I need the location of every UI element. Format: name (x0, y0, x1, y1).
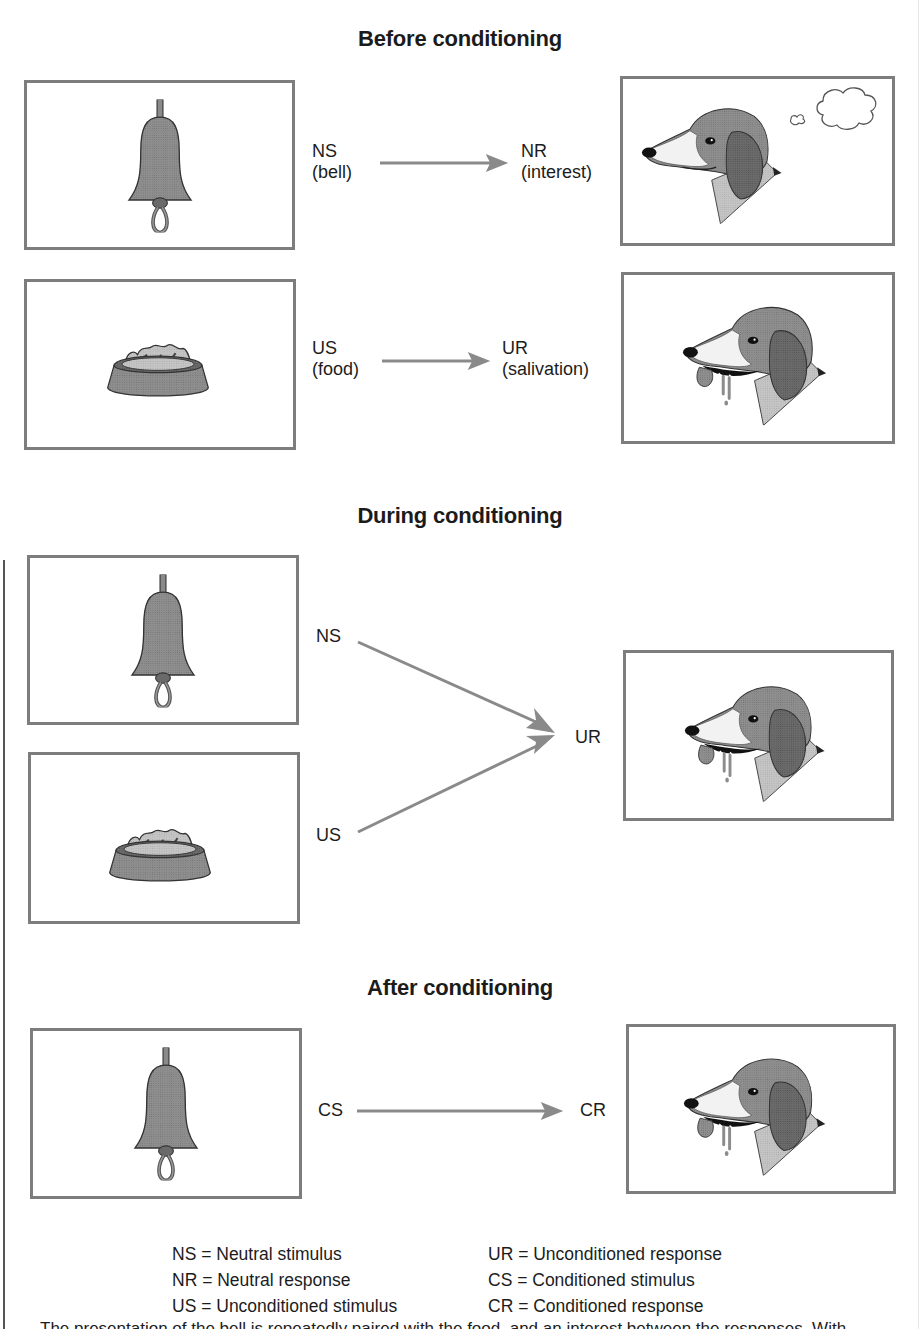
label-cs: CS (318, 1100, 343, 1121)
dog-interest-panel (620, 76, 895, 246)
label-ur: UR (502, 338, 528, 359)
page-edge-line (918, 0, 919, 1329)
label-us: US (316, 825, 341, 846)
legend-item: CR = Conditioned response (488, 1296, 703, 1317)
section-title-during: During conditioning (0, 503, 920, 529)
label-ur: UR (575, 727, 601, 748)
page-edge-line-left (3, 560, 5, 1329)
legend-item: US = Unconditioned stimulus (172, 1296, 397, 1317)
legend-item: NR = Neutral response (172, 1270, 351, 1291)
food-bowl-icon (105, 817, 215, 889)
label-nr-desc: (interest) (521, 162, 592, 183)
label-us-desc: (food) (312, 359, 359, 380)
dog-head-icon (681, 1047, 843, 1179)
dog-salivation-panel (623, 650, 894, 821)
legend-item: CS = Conditioned stimulus (488, 1270, 695, 1291)
bell-icon (126, 565, 200, 717)
dog-salivation-panel (621, 272, 895, 444)
label-ns: NS (316, 626, 341, 647)
dog-salivation-panel (626, 1024, 896, 1194)
dog-head-icon (680, 295, 844, 429)
arrow-right-icon (382, 352, 494, 370)
label-ns-desc: (bell) (312, 162, 352, 183)
arrow-right-icon (380, 154, 512, 172)
label-ur-desc: (salivation) (502, 359, 589, 380)
legend-item: NS = Neutral stimulus (172, 1244, 342, 1265)
bell-panel (30, 1028, 302, 1199)
converging-arrows-icon (350, 630, 570, 840)
food-bowl-icon (103, 332, 213, 404)
food-panel (28, 752, 300, 924)
bell-icon (123, 90, 197, 242)
label-cr: CR (580, 1100, 606, 1121)
thought-bubble-icon (783, 83, 883, 143)
bell-icon (129, 1038, 203, 1190)
label-nr: NR (521, 141, 547, 162)
bell-panel (24, 80, 295, 250)
bell-panel (27, 555, 299, 725)
dog-head-icon (682, 675, 842, 805)
cut-off-body-text: The presentation of the bell is repeated… (40, 1317, 920, 1329)
label-us: US (312, 338, 337, 359)
legend-item: UR = Unconditioned response (488, 1244, 722, 1265)
section-title-before: Before conditioning (0, 26, 920, 52)
dog-head-icon (639, 97, 799, 227)
label-ns: NS (312, 141, 337, 162)
food-panel (24, 279, 296, 450)
section-title-after: After conditioning (0, 975, 920, 1001)
arrow-right-icon (357, 1102, 567, 1120)
